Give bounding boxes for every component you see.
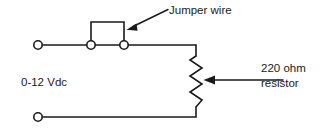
circuit-diagram: Jumper wire 0-12 Vdc 220 ohm resistor [0, 0, 324, 133]
terminal-jumper-left-icon [87, 41, 95, 49]
voltage-source-label: 0-12 Vdc [21, 76, 67, 89]
terminal-bottom-left-icon [34, 113, 42, 121]
resistor-label-line2: resistor [261, 76, 306, 91]
jumper-wire-bridge [91, 22, 124, 45]
bottom-conductor-wire [38, 107, 196, 117]
jumper-wire-leader-arrow-icon [127, 10, 169, 31]
top-conductor-wire [38, 45, 196, 56]
resistor-label: 220 ohm resistor [261, 61, 306, 90]
terminal-top-left-icon [34, 41, 42, 49]
jumper-wire-label: Jumper wire [169, 4, 232, 17]
terminal-jumper-right-icon [120, 41, 128, 49]
resistor-label-line1: 220 ohm [261, 61, 306, 76]
resistor-zigzag [190, 56, 202, 107]
